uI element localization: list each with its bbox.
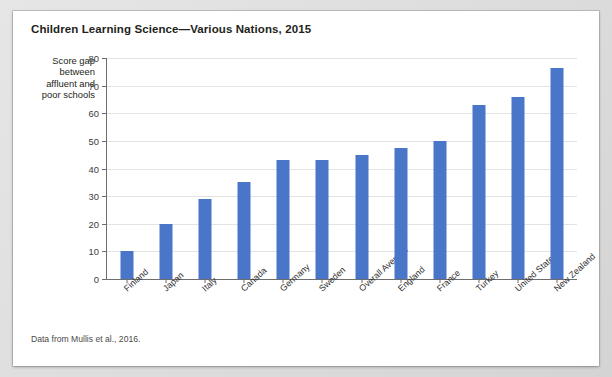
bar xyxy=(277,160,290,279)
bar xyxy=(473,105,486,279)
bar xyxy=(120,251,133,279)
gridline xyxy=(107,113,577,114)
y-axis-tick-label: 40 xyxy=(89,163,99,174)
plot-area: 01020304050607080FinlandJapanItalyCanada… xyxy=(106,58,577,280)
figure-card: Children Learning Science—Various Nation… xyxy=(13,11,599,366)
chart-plot-wrapper: Score gapbetweenaffluent andpoor schools… xyxy=(13,11,599,366)
bar xyxy=(512,97,525,279)
gridline xyxy=(107,58,577,59)
gridline xyxy=(107,169,577,170)
y-axis-tick-label: 50 xyxy=(89,135,99,146)
y-axis-tick-label: 0 xyxy=(94,274,99,285)
bar xyxy=(433,141,446,279)
y-axis-tick-label: 20 xyxy=(89,218,99,229)
y-axis-tick-label: 80 xyxy=(89,53,99,64)
gridline xyxy=(107,196,577,197)
y-axis-tick xyxy=(102,196,107,197)
gridline xyxy=(107,86,577,87)
bar xyxy=(238,182,251,279)
y-axis-title-line: affluent and xyxy=(27,78,95,89)
y-axis-tick xyxy=(102,113,107,114)
bar xyxy=(551,68,564,279)
bar xyxy=(355,155,368,279)
y-axis-tick xyxy=(102,279,107,280)
y-axis-title-line: between xyxy=(27,66,95,77)
y-axis-title: Score gapbetweenaffluent andpoor schools xyxy=(27,55,95,101)
gridline xyxy=(107,224,577,225)
bar xyxy=(159,224,172,279)
y-axis-tick-label: 10 xyxy=(89,246,99,257)
bar xyxy=(394,148,407,279)
bar xyxy=(198,199,211,279)
gridline xyxy=(107,141,577,142)
y-axis-tick xyxy=(102,224,107,225)
y-axis-tick-label: 30 xyxy=(89,191,99,202)
bar xyxy=(316,160,329,279)
y-axis-tick-label: 70 xyxy=(89,80,99,91)
y-axis-tick xyxy=(102,141,107,142)
y-axis-title-line: poor schools xyxy=(27,89,95,100)
y-axis-tick xyxy=(102,169,107,170)
y-axis-tick xyxy=(102,86,107,87)
source-note: Data from Mullis et al., 2016. xyxy=(31,334,140,344)
y-axis-tick-label: 60 xyxy=(89,108,99,119)
y-axis-tick xyxy=(102,58,107,59)
y-axis-title-line: Score gap xyxy=(27,55,95,66)
y-axis-tick xyxy=(102,251,107,252)
gridline xyxy=(107,251,577,252)
